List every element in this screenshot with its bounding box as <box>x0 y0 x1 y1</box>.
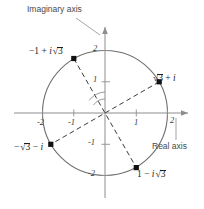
point-label-p2-i: i <box>173 73 176 83</box>
point-label-p3-radicand: 3 <box>26 142 31 152</box>
point-label-p3-i: i <box>40 142 43 152</box>
tick-label-real-2: 2 <box>170 116 174 125</box>
tick-label-imag-neg1: -1 <box>88 138 95 147</box>
point-label-p2-radicand: 3 <box>158 73 163 83</box>
point-label-p4-radical: √3 <box>155 169 166 179</box>
point-marker-p1 <box>71 56 76 61</box>
tick-label-imag-neg2: -2 <box>88 169 95 178</box>
tick-label-imag-2: 2 <box>93 44 97 53</box>
tick-label-imag-1: 1 <box>93 75 97 84</box>
point-label-p3: −√3 − i <box>14 143 43 153</box>
point-label-p3-radical: √3 <box>19 142 30 152</box>
point-label-p1: −1 + i√3 <box>29 47 63 57</box>
tick-label-real-1: 1 <box>134 118 138 127</box>
tick-label-real-neg2: -2 <box>37 118 44 127</box>
point-label-p4-prefix: 1 − <box>137 169 152 179</box>
point-label-p1-prefix: −1 + <box>29 46 49 56</box>
real-axis-label: Real axis <box>152 142 187 151</box>
point-label-p2-radical: √3 <box>152 73 163 83</box>
imaginary-axis-leader <box>76 18 100 35</box>
point-label-p1-radicand: 3 <box>58 46 63 56</box>
point-marker-p3 <box>48 142 53 147</box>
point-label-p1-radical: √3 <box>52 46 63 56</box>
imaginary-axis-arrow <box>102 27 108 34</box>
point-label-p4: 1 − i√3 <box>137 170 165 180</box>
point-label-p2: √3 + i <box>152 74 176 84</box>
point-label-p4-radicand: 3 <box>161 169 166 179</box>
point-label-p2-op: + <box>163 73 173 83</box>
real-axis-arrow <box>181 110 188 116</box>
tick-label-real-neg1: -1 <box>68 118 75 127</box>
point-label-p3-op: − <box>30 142 40 152</box>
complex-plane-figure: Imaginary axis Real axis -2 -1 1 2 2 1 -… <box>0 0 204 209</box>
imaginary-axis-label: Imaginary axis <box>27 5 82 14</box>
diagram-canvas <box>0 0 204 209</box>
